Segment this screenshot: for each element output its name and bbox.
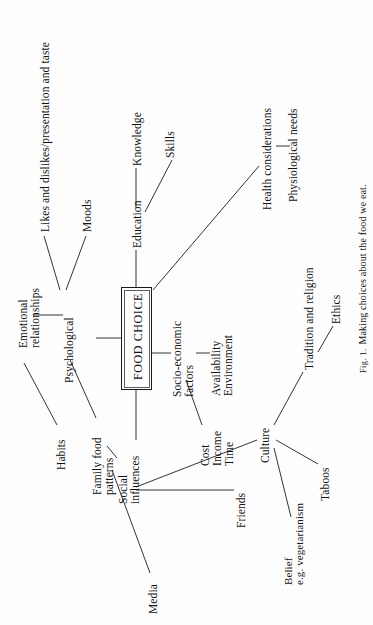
node-moods-label: Moods — [82, 200, 94, 232]
node-family-food-patterns-label: Family food patterns — [92, 437, 116, 495]
node-socio-economic-factors-label: Socio-economic factors — [172, 321, 196, 397]
node-social-influences-label: Social influences — [118, 456, 142, 504]
edge-culture-taboos — [276, 440, 318, 464]
node-taboos-label: Taboos — [320, 467, 332, 501]
node-belief-vegetarianism-label: Belief e.g. vegetarianism — [283, 503, 306, 585]
figure-caption: Fig. 1.Making choices about the food we … — [358, 184, 369, 373]
node-cost-income-time-label: Cost Income Time — [200, 431, 236, 466]
edge-education-skills — [145, 160, 172, 212]
edge-foodchoice-health — [153, 166, 259, 290]
node-tradition-and-religion-label: Tradition and religion — [304, 267, 316, 370]
figure-food-choice-mindmap: FOOD CHOICE Psychological Likes and disl… — [0, 0, 373, 625]
node-physiological-needs-label: Physiological needs — [288, 108, 300, 202]
edge-culture-tradition — [274, 372, 303, 425]
node-availability-environment-label: Availability Environment — [211, 335, 235, 396]
edge-emotional-habits — [24, 363, 57, 425]
edge-tradition-ethics — [318, 326, 333, 352]
node-emotional-relationships-label: Emotional relationships — [18, 288, 42, 348]
edge-psychological-likesdislikes — [44, 236, 60, 290]
node-skills-label: Skills — [165, 131, 177, 158]
connector-lines — [0, 0, 373, 625]
node-likes-dislikes-label: Likes and dislikes/presentation and tast… — [40, 42, 52, 232]
edge-social-culture — [136, 440, 257, 487]
node-health-considerations-label: Health considerations — [262, 108, 274, 210]
node-habits-label: Habits — [56, 439, 68, 470]
edge-psychological-moods — [66, 236, 86, 290]
node-education-label: Education — [132, 200, 144, 248]
center-node-label: FOOD CHOICE — [132, 293, 144, 380]
node-friends-label: Friends — [236, 493, 248, 528]
figure-caption-prefix: Fig. 1. — [359, 349, 368, 373]
node-media-label: Media — [148, 584, 160, 614]
node-knowledge-label: Knowledge — [132, 112, 144, 166]
node-psychological-label: Psychological — [64, 317, 76, 383]
node-culture-label: Culture — [260, 428, 272, 463]
figure-caption-text: Making choices about the food we eat. — [357, 184, 368, 344]
node-ethics-label: Ethics — [331, 295, 343, 324]
